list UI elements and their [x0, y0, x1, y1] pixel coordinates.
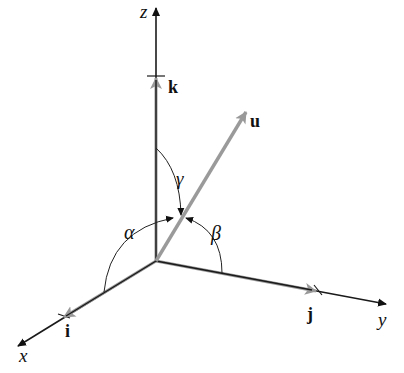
j-label: j	[306, 304, 313, 324]
alpha-arc	[104, 218, 173, 292]
x-axis-label: x	[18, 345, 28, 366]
beta-label: β	[210, 222, 221, 245]
u-label: u	[250, 111, 260, 131]
vector-u	[156, 112, 246, 261]
gamma-label: γ	[176, 168, 184, 189]
direction-angles-diagram: z k u γ α β i x j y	[0, 0, 404, 373]
y-axis-label: y	[376, 309, 387, 330]
k-label: k	[168, 77, 178, 97]
i-label: i	[65, 321, 70, 341]
alpha-label: α	[124, 221, 135, 243]
z-axis-label: z	[139, 1, 148, 22]
